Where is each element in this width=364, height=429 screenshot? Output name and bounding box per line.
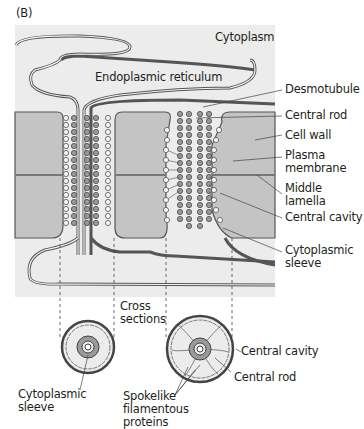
cross-section-large (167, 316, 233, 382)
cross-section-small (62, 321, 114, 373)
label-central-rod: Central rod (285, 109, 347, 122)
panel-label: (B) (16, 7, 32, 20)
label-cross-sections-l2: sections (120, 313, 166, 326)
label-desmotubule: Desmotubule (285, 83, 360, 96)
label-cytoplasmic-sleeve-l2: sleeve (285, 257, 353, 270)
label-middle-lamella: Middle lamella (285, 182, 326, 208)
label-cytoplasmic-sleeve: Cytoplasmic sleeve (285, 244, 353, 270)
label-cs-central-rod: Central rod (234, 371, 296, 384)
label-cytoplasm: Cytoplasm (215, 31, 274, 44)
label-spokelike-proteins: Spokelike filamentous proteins (123, 390, 189, 429)
label-cross-sections: Cross sections (120, 300, 166, 326)
label-cs-central-cavity: Central cavity (241, 345, 318, 358)
label-cell-wall: Cell wall (285, 129, 331, 142)
label-plasma-membrane: Plasma membrane (285, 149, 346, 175)
label-middle-lamella-l2: lamella (285, 195, 326, 208)
label-er: Endoplasmic reticulum (95, 71, 222, 84)
label-cs-cytoplasmic-sleeve: Cytoplasmic sleeve (18, 388, 86, 414)
label-central-cavity: Central cavity (285, 211, 362, 224)
label-cs-sleeve-l2: sleeve (18, 401, 86, 414)
label-spoke-l3: proteins (123, 416, 189, 429)
label-plasma-membrane-l2: membrane (285, 162, 346, 175)
